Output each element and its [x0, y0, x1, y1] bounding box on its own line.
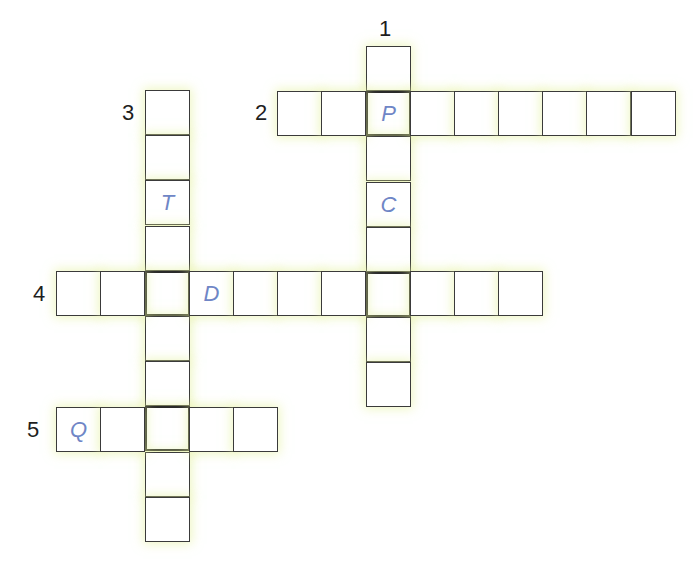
crossword-cell[interactable] — [586, 91, 631, 136]
crossword-cell[interactable] — [145, 135, 190, 180]
given-letter: P — [381, 101, 396, 127]
crossword-cell[interactable]: C — [366, 182, 411, 227]
crossword-cell[interactable] — [233, 407, 278, 452]
crossword-cell[interactable] — [145, 361, 190, 406]
crossword-cell[interactable] — [145, 452, 190, 497]
clue-number-5-across: 5 — [27, 419, 39, 441]
crossword-cell[interactable] — [366, 272, 411, 317]
crossword-cell[interactable] — [366, 317, 411, 362]
given-letter: Q — [70, 417, 87, 443]
crossword-grid: PCTDQ12345 — [0, 0, 694, 577]
clue-number-2-across: 2 — [255, 102, 267, 124]
crossword-cell[interactable]: D — [189, 271, 234, 316]
crossword-cell[interactable] — [454, 91, 499, 136]
crossword-cell[interactable] — [145, 406, 190, 451]
crossword-cell[interactable] — [498, 91, 543, 136]
given-letter: T — [161, 190, 174, 216]
clue-number-1-down: 1 — [379, 18, 391, 40]
clue-number-4-across: 4 — [33, 283, 45, 305]
crossword-cell[interactable]: Q — [56, 407, 101, 452]
crossword-cell[interactable] — [145, 497, 190, 542]
crossword-cell[interactable] — [454, 271, 499, 316]
crossword-cell[interactable] — [366, 362, 411, 407]
crossword-cell[interactable]: T — [145, 180, 190, 225]
given-letter: D — [204, 281, 220, 307]
given-letter: C — [381, 192, 397, 218]
crossword-cell[interactable] — [145, 90, 190, 135]
crossword-cell[interactable] — [145, 316, 190, 361]
crossword-cell[interactable] — [100, 407, 145, 452]
crossword-cell[interactable]: P — [366, 91, 411, 136]
crossword-cell[interactable] — [56, 271, 101, 316]
crossword-cell[interactable] — [233, 271, 278, 316]
crossword-cell[interactable] — [366, 136, 411, 181]
crossword-cell[interactable] — [277, 271, 322, 316]
crossword-cell[interactable] — [100, 271, 145, 316]
crossword-cell[interactable] — [631, 91, 676, 136]
crossword-cell[interactable] — [145, 226, 190, 271]
crossword-cell[interactable] — [366, 227, 411, 272]
crossword-cell[interactable] — [321, 91, 366, 136]
crossword-cell[interactable] — [277, 91, 322, 136]
crossword-cell[interactable] — [410, 91, 455, 136]
crossword-cell[interactable] — [542, 91, 587, 136]
crossword-cell[interactable] — [498, 271, 543, 316]
crossword-cell[interactable] — [410, 271, 455, 316]
crossword-cell[interactable] — [321, 271, 366, 316]
clue-number-3-down: 3 — [122, 102, 134, 124]
crossword-cell[interactable] — [189, 407, 234, 452]
crossword-cell[interactable] — [366, 46, 411, 91]
crossword-cell[interactable] — [145, 271, 190, 316]
